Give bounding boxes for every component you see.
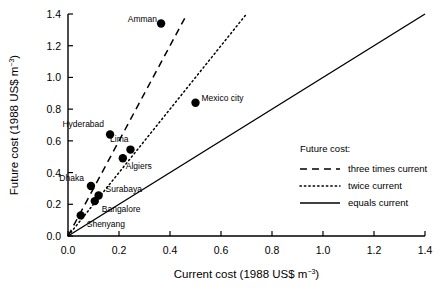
y-tick-label-1.4: 1.4 [46,8,61,20]
x-tick-label-1.2: 1.2 [367,244,382,256]
x-tick-label-0.2: 0.2 [112,244,127,256]
x-tick-label-0.4: 0.4 [163,244,178,256]
chart-canvas: 0.00.20.40.60.81.01.21.40.00.20.40.60.81… [0,0,445,295]
data-point-label-surabaya: Surabaya [106,184,143,194]
data-point-label-dhaka: Dhaka [59,173,84,183]
x-tick-label-0.0: 0.0 [61,244,76,256]
legend-label-three-times-current: three times current [348,163,428,174]
data-point-label-shenyang: Shenyang [87,219,126,229]
x-tick-label-0.6: 0.6 [214,244,229,256]
data-point-lima[interactable] [126,145,134,153]
x-axis-title: Current cost (1988 US$ m−3) [174,268,320,280]
data-point-dhaka[interactable] [87,182,95,190]
data-point-label-hyderabad: Hyderabad [62,119,104,129]
data-point-label-algiers: Algiers [126,161,152,171]
data-point-label-mexico-city: Mexico city [202,93,245,103]
data-point-bangalore[interactable] [91,197,99,205]
data-point-label-lima: Lima [110,134,129,144]
x-tick-label-1.0: 1.0 [316,244,331,256]
y-tick-label-0.8: 0.8 [46,103,61,115]
legend-label-twice-current: twice current [348,180,402,191]
y-tick-label-1.2: 1.2 [46,40,61,52]
x-tick-label-0.8: 0.8 [265,244,280,256]
y-tick-label-0.0: 0.0 [46,230,61,242]
legend-label-equals-current: equals current [348,197,409,208]
y-tick-label-0.6: 0.6 [46,135,61,147]
scatter-chart: 0.00.20.40.60.81.01.21.40.00.20.40.60.81… [0,0,445,295]
data-point-shenyang[interactable] [77,211,85,219]
data-point-label-bangalore: Bangalore [102,204,141,214]
data-point-mexico-city[interactable] [191,99,199,107]
x-tick-label-1.4: 1.4 [418,244,433,256]
legend-title: Future cost: [300,143,350,154]
data-point-amman[interactable] [157,19,165,27]
y-axis-title: Future cost (1988 US$ m−3) [8,55,20,195]
data-point-label-amman: Amman [128,14,158,24]
y-tick-label-0.2: 0.2 [46,198,61,210]
y-tick-label-1.0: 1.0 [46,71,61,83]
